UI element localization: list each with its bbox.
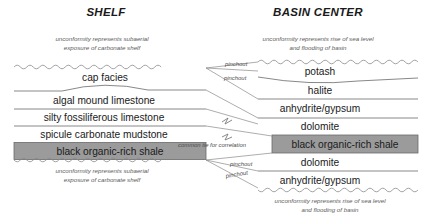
shelf-column-title: SHELF [86,6,126,18]
basin-bottom-caption-line2: and flooding of basin [301,206,359,213]
tie-line-shale-to-dolomite-lower [206,153,272,160]
basin-top-caption-line1: unconformity represents rise of sea leve… [262,35,374,42]
tie-line-spicule-to-shale [206,126,272,136]
basin-top-unconformity-wavy-line [258,60,418,64]
basin-unit-label-potash: potash [305,66,336,77]
basin-unit-label-anhydrite-gypsum-lower: anhydrite/gypsum [280,175,360,186]
basin-bottom-unconformity-wavy-line [258,188,418,192]
shelf-bottom-caption-line1: unconformity represents subaerial [55,167,149,174]
annotation-common-tie-for-correlation: common tie for correlation [178,142,247,148]
basin-center-column-body: potash halite anhydrite/gypsum dolomite … [258,60,418,192]
stratigraphic-cross-section-figure: SHELF BASIN CENTER unconformity represen… [0,0,424,220]
annotation-pinchout-lower-2: pinchout [224,170,248,180]
shelf-unit-label-spicule-carbonate-mudstone: spicule carbonate mudstone [40,129,168,140]
basin-top-caption-line2: and flooding of basin [289,44,347,51]
basin-center-column-title: BASIN CENTER [273,6,363,18]
basin-unit-label-halite: halite [308,85,333,96]
basin-unit-label-dolomite-upper: dolomite [301,121,340,132]
shelf-top-caption-line2: exposure of carbonate shelf [64,44,142,51]
annotation-pinchout-upper-2: pinchout [223,75,247,81]
shelf-unit-label-black-organic-rich-shale: black organic-rich shale [56,146,163,157]
shelf-unit-label-cap-facies: cap facies [82,72,128,83]
basin-unit-label-black-organic-rich-shale: black organic-rich shale [291,139,398,150]
tie-line-capfacies-to-potash-base [206,68,258,71]
basin-unit-label-dolomite-lower: dolomite [301,157,340,168]
zigzag-marker-lower-icon [222,134,232,140]
shelf-boundary-capfacies-algalmound [14,85,206,91]
basin-unit-label-anhydrite-gypsum-upper: anhydrite/gypsum [280,103,360,114]
zigzag-marker-upper-icon [222,118,232,124]
shelf-bottom-caption-line2: exposure of carbonate shelf [64,176,142,183]
shelf-top-unconformity-wavy-line [14,65,161,69]
shelf-unit-label-algal-mound-limestone: algal mound limestone [53,95,155,106]
annotation-pinchout-lower-1: pinchout [229,161,253,167]
annotation-pinchout-upper-1: pinchout [224,61,248,67]
basin-boundary-potash-halite [258,77,418,83]
shelf-unit-label-silty-fossiliferous-limestone: silty fossiliferous limestone [44,112,165,123]
tie-line-silty-to-dolomite [206,109,258,124]
basin-bottom-caption-line1: unconformity represents rise of sea leve… [274,197,386,204]
shelf-top-caption-line1: unconformity represents subaerial [55,35,149,42]
